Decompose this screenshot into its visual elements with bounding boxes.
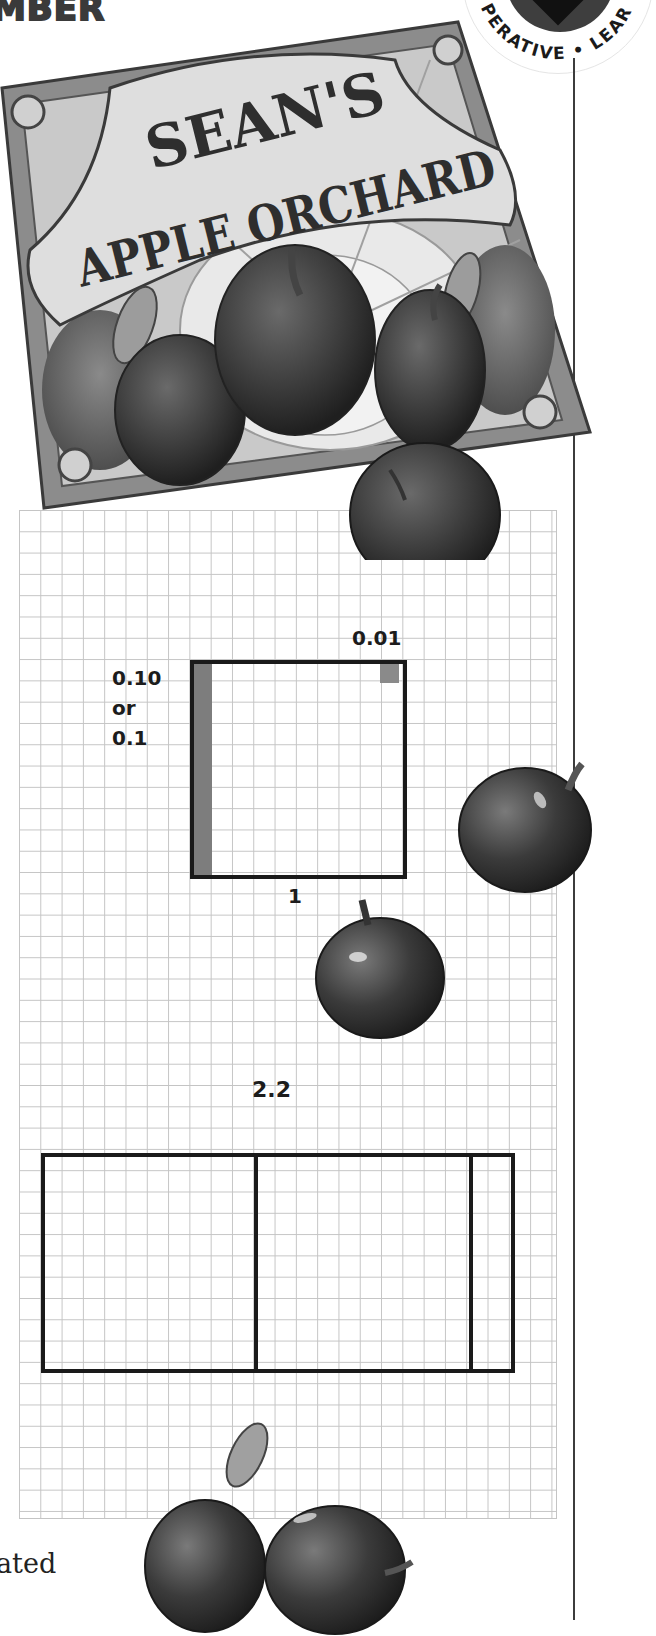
decimal-value-label: 2.2 <box>252 1077 291 1102</box>
apple-pair-icon <box>145 1417 412 1634</box>
body-text-fragment: ated <box>0 1548 56 1579</box>
apple-icon <box>316 900 444 1038</box>
tenths-divider <box>469 1153 473 1373</box>
apple-icon <box>459 764 591 892</box>
two-point-two-model <box>41 1153 515 1373</box>
whole-divider <box>254 1153 258 1373</box>
